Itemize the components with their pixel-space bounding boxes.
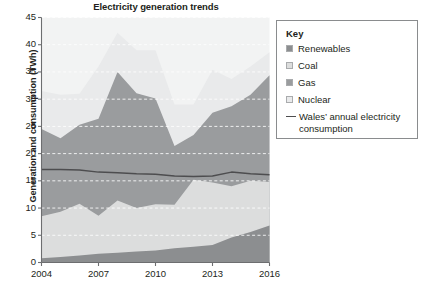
legend-swatch-icon [286, 45, 293, 52]
legend-item-label: Nuclear [298, 94, 408, 106]
legend-item[interactable]: Coal [286, 60, 408, 72]
legend-swatch-icon [286, 79, 293, 86]
legend-item[interactable]: Nuclear [286, 94, 408, 106]
legend-line-marker-icon [286, 116, 296, 117]
legend-item-label: Wales’ annual electricity consumption [299, 111, 409, 134]
legend-item[interactable]: Renewables [286, 43, 408, 55]
legend-item-label: Renewables [298, 43, 408, 55]
legend-item-label: Coal [298, 60, 408, 72]
legend-item[interactable]: Gas [286, 77, 408, 89]
legend-swatch-icon [286, 62, 293, 69]
legend-swatch-icon [286, 96, 293, 103]
chart-figure: Electricity generation trends Generation… [0, 0, 422, 306]
legend-item-label: Gas [298, 77, 408, 89]
legend-item[interactable]: Wales’ annual electricity consumption [286, 111, 409, 134]
legend-title: Key [286, 28, 303, 39]
chart-legend: Key RenewablesCoalGasNuclearWales’ annua… [276, 20, 418, 139]
